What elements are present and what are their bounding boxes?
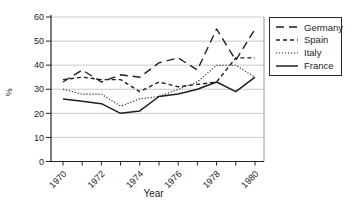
x-tick-label-1972: 1972 bbox=[86, 169, 107, 190]
legend-item-spain: Spain bbox=[275, 35, 336, 45]
series-line-italy bbox=[63, 65, 255, 106]
y-axis-title: % bbox=[4, 88, 14, 96]
series-line-germany bbox=[63, 29, 255, 82]
x-tick-label-1970: 1970 bbox=[47, 169, 68, 190]
legend-item-france: France bbox=[275, 61, 336, 71]
y-tick-label-10: 10 bbox=[34, 133, 44, 143]
legend-label-spain: Spain bbox=[304, 35, 328, 45]
spain-line-sample-icon bbox=[275, 36, 299, 44]
legend-label-france: France bbox=[304, 61, 334, 71]
y-tick-label-20: 20 bbox=[34, 109, 44, 119]
france-line-sample-icon bbox=[275, 62, 299, 70]
x-axis-title: Year bbox=[143, 188, 164, 199]
x-tick-label-1978: 1978 bbox=[201, 169, 222, 190]
y-tick-label-60: 60 bbox=[34, 12, 44, 22]
x-tick-label-1976: 1976 bbox=[162, 169, 183, 190]
y-tick-label-0: 0 bbox=[39, 157, 44, 167]
legend-item-italy: Italy bbox=[275, 48, 336, 58]
legend-label-germany: Germany bbox=[304, 23, 343, 33]
x-tick-label-1974: 1974 bbox=[124, 169, 145, 190]
line-chart-figure: 0102030405060197019721974197619781980Yea… bbox=[0, 0, 360, 219]
germany-line-sample-icon bbox=[275, 23, 299, 31]
y-tick-label-30: 30 bbox=[34, 84, 44, 94]
legend-label-italy: Italy bbox=[304, 48, 321, 58]
y-tick-label-40: 40 bbox=[34, 60, 44, 70]
chart-legend: Germany Spain Italy France bbox=[269, 17, 342, 76]
y-tick-label-50: 50 bbox=[34, 36, 44, 46]
legend-item-germany: Germany bbox=[275, 23, 336, 33]
x-tick-label-1980: 1980 bbox=[239, 169, 260, 190]
italy-line-sample-icon bbox=[275, 49, 299, 57]
